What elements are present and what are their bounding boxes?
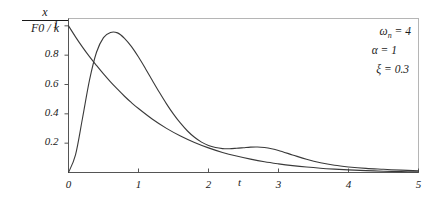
data-series-group (69, 26, 419, 173)
annotation-omega-n-subscript: n (388, 31, 392, 40)
x-axis-tick-label: 4 (337, 178, 361, 190)
chart-figure: x F0 / k 012345 0.20.40.60.81 t ωn = 4 α… (0, 0, 433, 203)
annotation-xi-value: 0.3 (395, 63, 409, 75)
x-axis-tick-label: 1 (127, 178, 151, 190)
y-axis-tick-label: 0.8 (33, 47, 59, 59)
x-axis-tick-label: 5 (407, 178, 431, 190)
series-line-exponential-decay (69, 26, 419, 172)
plot-frame (69, 19, 419, 173)
x-axis-label: t (238, 176, 241, 188)
annotation-alpha-relation: = (381, 44, 392, 56)
annotation-alpha-symbol: α (372, 44, 378, 56)
y-axis-tick-label: 0.4 (33, 106, 59, 118)
y-axis-tick-label: 0.2 (33, 135, 59, 147)
x-axis-tick-label: 0 (57, 178, 81, 190)
annotation-alpha-value: 1 (391, 44, 397, 56)
y-axis-ticks (65, 26, 69, 143)
x-axis-tick-label: 2 (197, 178, 221, 190)
y-axis-tick-label: 0.6 (33, 77, 59, 89)
x-axis-tick-label: 3 (267, 178, 291, 190)
annotation-xi: ξ = 0.3 (376, 63, 409, 75)
y-axis-tick-label: 1 (33, 18, 59, 30)
annotation-omega-n: ωn = 4 (380, 25, 411, 40)
annotation-omega-n-value: 4 (405, 25, 411, 37)
annotation-omega-n-symbol: ω (380, 25, 388, 37)
annotation-alpha: α = 1 (372, 44, 397, 56)
annotation-xi-relation: = (384, 63, 395, 75)
series-line-underdamped-oscillation (69, 32, 419, 173)
annotation-xi-symbol: ξ (376, 63, 381, 75)
annotation-omega-n-relation: = (395, 25, 406, 37)
